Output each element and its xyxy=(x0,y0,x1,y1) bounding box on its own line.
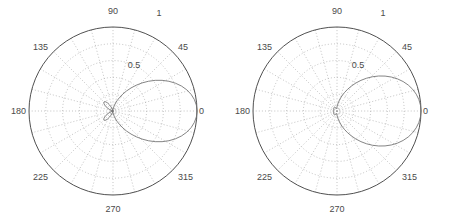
angle-label-180: 180 xyxy=(235,106,250,116)
angle-label-180: 180 xyxy=(11,106,26,116)
angle-label-0: 0 xyxy=(423,106,428,116)
angle-label-270: 270 xyxy=(105,204,120,214)
angle-label-90: 90 xyxy=(108,6,118,16)
left-polar-plot: 0 45 90 135 180 225 270 315 0.5 1 xyxy=(0,0,227,222)
right-polar-plot: 0 45 90 135 180 225 270 315 0.5 1 xyxy=(227,0,454,222)
radial-label-one: 1 xyxy=(380,8,385,18)
right-grid xyxy=(253,27,421,195)
right-polar-svg: 0 45 90 135 180 225 270 315 0.5 1 xyxy=(227,0,454,222)
angle-label-225: 225 xyxy=(33,172,48,182)
left-polar-svg: 0 45 90 135 180 225 270 315 0.5 1 xyxy=(0,0,227,222)
angle-label-45: 45 xyxy=(402,42,412,52)
angle-label-0: 0 xyxy=(199,106,204,116)
angle-label-225: 225 xyxy=(257,172,272,182)
left-labels: 0 45 90 135 180 225 270 315 0.5 1 xyxy=(11,6,204,214)
polar-figure: 0 45 90 135 180 225 270 315 0.5 1 0 45 9… xyxy=(0,0,455,222)
angle-label-315: 315 xyxy=(402,172,417,182)
right-labels: 0 45 90 135 180 225 270 315 0.5 1 xyxy=(235,6,428,214)
angle-label-135: 135 xyxy=(33,42,48,52)
radial-label-one: 1 xyxy=(156,8,161,18)
angle-label-90: 90 xyxy=(332,6,342,16)
angle-label-270: 270 xyxy=(329,204,344,214)
angle-label-45: 45 xyxy=(178,42,188,52)
radial-label-half: 0.5 xyxy=(352,60,365,70)
angle-label-135: 135 xyxy=(257,42,272,52)
angle-label-315: 315 xyxy=(178,172,193,182)
radial-label-half: 0.5 xyxy=(128,60,141,70)
